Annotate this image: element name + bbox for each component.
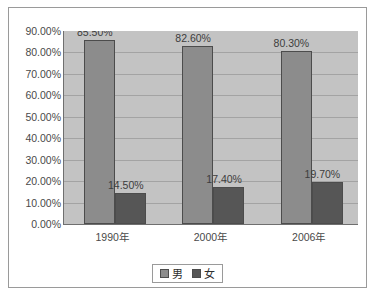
- y-axis-tick-label: 40.00%: [9, 133, 61, 144]
- bar-label-male-1990: 85.50%: [77, 31, 113, 38]
- y-axis: 90.00% 80.00% 70.00% 60.00% 50.00% 40.00…: [9, 31, 61, 225]
- legend-label-male: 男: [172, 268, 183, 280]
- legend-label-female: 女: [204, 268, 215, 280]
- y-axis-tick-label: 70.00%: [9, 69, 61, 80]
- y-axis-tick-label: 90.00%: [9, 26, 61, 37]
- y-axis-tick-label: 10.00%: [9, 198, 61, 209]
- bar-male-2000[interactable]: [182, 46, 213, 224]
- bar-label-male-2000: 82.60%: [175, 33, 211, 44]
- y-axis-tick-label: 0.00%: [9, 219, 61, 230]
- legend-item-female[interactable]: 女: [192, 268, 215, 280]
- plot-area: 85.50% 14.50% 82.60% 17.40% 80.30% 19.70…: [63, 31, 358, 225]
- bar-label-female-1990: 14.50%: [108, 180, 144, 191]
- chart-legend: 男 女: [152, 264, 223, 283]
- bar-label-male-2006: 80.30%: [274, 38, 310, 49]
- bar-group: 82.60% 17.40%: [162, 31, 260, 224]
- y-axis-tick-label: 80.00%: [9, 47, 61, 58]
- x-axis: 1990年 2000年 2006年: [63, 230, 358, 252]
- bar-label-female-2006: 19.70%: [305, 169, 341, 180]
- bar-group: 80.30% 19.70%: [261, 31, 358, 224]
- bar-male-2006[interactable]: [281, 51, 312, 224]
- bar-label-female-2000: 17.40%: [206, 174, 242, 185]
- bar-female-1990[interactable]: [115, 193, 146, 224]
- x-axis-tick-label: 1990年: [63, 230, 161, 244]
- y-axis-tick-label: 20.00%: [9, 176, 61, 187]
- y-axis-tick-label: 30.00%: [9, 155, 61, 166]
- legend-item-male[interactable]: 男: [160, 268, 183, 280]
- legend-swatch-male-icon: [160, 269, 169, 278]
- chart-frame: 90.00% 80.00% 70.00% 60.00% 50.00% 40.00…: [8, 7, 367, 288]
- legend-swatch-female-icon: [192, 269, 201, 278]
- bar-female-2006[interactable]: [312, 182, 343, 224]
- bar-group: 85.50% 14.50%: [64, 31, 162, 224]
- x-axis-tick-label: 2000年: [161, 230, 259, 244]
- x-axis-tick-label: 2006年: [260, 230, 358, 244]
- bar-male-1990[interactable]: [84, 40, 115, 224]
- y-axis-tick-label: 50.00%: [9, 112, 61, 123]
- y-axis-tick-label: 60.00%: [9, 90, 61, 101]
- bar-female-2000[interactable]: [213, 187, 244, 225]
